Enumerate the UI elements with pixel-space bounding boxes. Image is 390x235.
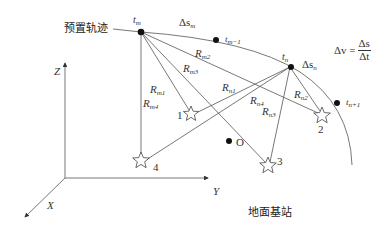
z-axis-label: Z [54,66,60,77]
origin-point [226,138,232,144]
range-label-m3: Rm3 [183,63,198,76]
t-n-label: tn [282,52,288,64]
station-1-star-icon [183,106,198,120]
station-2-star-icon [314,107,331,123]
station-2-label: 2 [318,124,324,135]
x-axis-label: X [47,200,54,211]
ground-station-label: 地面基站 [248,207,292,218]
station-4-star-icon [133,152,150,168]
point-t-n [288,64,294,70]
range-label-n1: Rn1 [222,82,236,95]
range-label-m1: Rm1 [150,84,165,97]
t-n-plus-1-label: tn+1 [346,98,360,109]
range-line-n1 [196,67,290,113]
origin-label: O [236,137,244,148]
range-label-n2: Rn2 [294,89,308,102]
t-m-minus-1-label: tm−1 [225,35,241,46]
station-3-label: 3 [277,156,283,167]
ds-n-label: Δsn [302,59,317,72]
station-4-label: 4 [153,162,159,173]
t-m-label: tm [133,15,141,27]
y-axis-label: Y [213,186,219,197]
formula-numerator: Δs [358,38,371,51]
ds-m-label: Δsm [179,17,195,30]
velocity-formula: Δv = Δs Δt [334,38,371,62]
range-label-n3: Rn3 [262,106,276,119]
point-t-m [138,29,145,36]
formula-lhs: Δv = [334,44,356,56]
diagram-canvas [0,0,390,235]
point-t-m-minus-1 [213,37,219,43]
trajectory-label: 预置轨迹 [64,23,108,34]
trajectory-arc [141,32,352,165]
x-axis [25,178,65,217]
trajectory-leader-line [113,29,141,32]
range-label-m4: Rm4 [143,98,158,111]
range-label-m2: Rm2 [195,48,210,61]
station-1-label: 1 [177,110,183,121]
formula-denominator: Δt [359,51,369,63]
range-label-n4: Rn4 [250,95,264,108]
point-t-n-plus-1 [334,100,340,106]
